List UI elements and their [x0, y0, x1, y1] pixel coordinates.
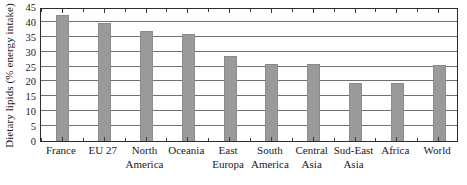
x-tick-mark	[271, 137, 272, 141]
x-tick-mark-minor-top	[375, 9, 376, 12]
y-axis-tick-labels: 051015202530354045	[18, 8, 38, 142]
x-tick-mark	[62, 137, 63, 141]
x-tick-mark	[229, 137, 230, 141]
bar	[391, 83, 404, 141]
x-tick-mark-minor	[208, 138, 209, 141]
x-tick-mark	[104, 137, 105, 141]
dietary-lipids-bar-chart: Dietary lipids (% energy intake) 0510152…	[0, 0, 467, 185]
x-tick-label: Africa	[381, 144, 409, 158]
x-tick-mark-top	[438, 9, 439, 13]
x-tick-label: World	[423, 144, 450, 158]
x-tick-mark	[438, 137, 439, 141]
x-tick-label: Sud-EastAsia	[334, 144, 374, 171]
x-tick-label: Oceania	[168, 144, 204, 158]
x-tick-mark-minor-top	[208, 9, 209, 12]
x-tick-mark-top	[146, 9, 147, 13]
x-tick-mark-minor	[166, 138, 167, 141]
bar	[307, 64, 320, 141]
x-tick-mark-minor-top	[334, 9, 335, 12]
bar	[140, 31, 153, 141]
x-tick-mark-top	[187, 9, 188, 13]
x-tick-mark-minor	[83, 138, 84, 141]
x-tick-mark-minor	[334, 138, 335, 141]
x-tick-label-line2: America	[126, 158, 164, 172]
x-tick-mark-minor	[125, 138, 126, 141]
x-tick-label-line1: Oceania	[168, 144, 204, 156]
x-tick-mark-minor-top	[125, 9, 126, 12]
y-tick-label: 30	[26, 47, 37, 58]
x-tick-label-line1: EU 27	[88, 144, 116, 156]
y-tick-label: 40	[26, 18, 37, 29]
x-tick-label-line1: World	[423, 144, 450, 156]
x-tick-label-line2: Asia	[295, 158, 327, 172]
x-tick-mark	[146, 137, 147, 141]
x-axis-tick-labels: FranceEU 27NorthAmericaOceaniaEastEuropa…	[40, 144, 458, 185]
y-tick-label: 5	[31, 122, 36, 133]
bar	[224, 56, 237, 141]
x-tick-label-line1: Africa	[381, 144, 409, 156]
x-tick-label: France	[46, 144, 76, 158]
x-tick-label-line1: France	[46, 144, 76, 156]
x-tick-mark-minor-top	[417, 9, 418, 12]
x-tick-mark	[355, 137, 356, 141]
x-tick-label-line1: Central	[295, 144, 327, 156]
x-tick-mark-minor	[292, 138, 293, 141]
y-tick-label: 0	[31, 137, 36, 148]
x-tick-label: EU 27	[88, 144, 116, 158]
x-tick-label-line2: Asia	[334, 158, 374, 172]
x-tick-mark-minor-top	[292, 9, 293, 12]
x-tick-mark-minor	[41, 138, 42, 141]
x-tick-mark	[396, 137, 397, 141]
x-tick-mark-minor	[417, 138, 418, 141]
x-tick-mark-minor-top	[250, 9, 251, 12]
x-tick-mark-minor-top	[41, 9, 42, 12]
x-tick-label: SouthAmerica	[251, 144, 289, 171]
bar	[265, 64, 278, 141]
x-tick-label-line2: America	[251, 158, 289, 172]
bar	[98, 23, 111, 141]
x-tick-mark-top	[104, 9, 105, 13]
y-axis-title-text: Dietary lipids (% energy intake)	[4, 3, 15, 148]
y-tick-label: 15	[26, 92, 37, 103]
bar	[182, 34, 195, 141]
y-tick-label: 20	[26, 77, 37, 88]
x-tick-label: EastEuropa	[212, 144, 244, 171]
plot-area	[40, 8, 458, 142]
bar	[433, 65, 446, 141]
x-tick-mark-top	[229, 9, 230, 13]
bar	[349, 83, 362, 141]
x-tick-mark-minor	[375, 138, 376, 141]
x-tick-label-line1: Sud-East	[334, 144, 374, 156]
x-tick-mark-top	[396, 9, 397, 13]
x-tick-mark-minor-top	[83, 9, 84, 12]
y-axis-title: Dietary lipids (% energy intake)	[0, 0, 18, 150]
x-tick-mark-top	[355, 9, 356, 13]
x-tick-mark	[313, 137, 314, 141]
x-tick-mark	[187, 137, 188, 141]
x-tick-label-line2: Europa	[212, 158, 244, 172]
x-tick-mark-minor	[250, 138, 251, 141]
y-tick-label: 45	[26, 3, 37, 14]
x-tick-label: CentralAsia	[295, 144, 327, 171]
bar	[56, 15, 69, 141]
x-tick-mark-top	[271, 9, 272, 13]
x-tick-mark-top	[62, 9, 63, 13]
y-tick-label: 10	[26, 107, 37, 118]
x-tick-label-line1: East	[219, 144, 238, 156]
x-tick-label: NorthAmerica	[126, 144, 164, 171]
x-tick-mark-top	[313, 9, 314, 13]
x-tick-mark-minor-top	[166, 9, 167, 12]
x-tick-label-line1: North	[132, 144, 158, 156]
x-tick-label-line1: South	[257, 144, 283, 156]
y-tick-label: 35	[26, 33, 37, 44]
y-tick-label: 25	[26, 62, 37, 73]
